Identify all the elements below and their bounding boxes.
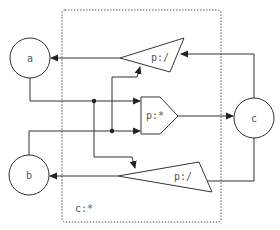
node-center-multiply[interactable]: p:* [141,97,178,134]
edge-b-to-center [29,131,140,155]
edge-c-to-upper [181,54,254,98]
node-center-multiply-label: p:* [146,110,164,121]
node-b[interactable]: b [9,155,49,195]
junction-dot-a [92,99,96,103]
node-a[interactable]: a [10,38,50,78]
container-label: c:* [75,203,93,214]
diagram-canvas: c:* a b c p:/ [0,0,280,230]
node-lower-divide-label: p:/ [174,171,192,182]
node-upper-divide[interactable]: p:/ [120,38,184,72]
node-c[interactable]: c [234,98,274,138]
edge-b-branch-to-upper [112,67,140,131]
node-upper-divide-label: p:/ [151,52,169,63]
junction-dot-b [110,129,114,133]
node-b-label: b [26,170,32,181]
edge-a-branch-to-lower [94,101,135,168]
node-c-label: c [251,113,257,124]
node-lower-divide[interactable]: p:/ [118,162,212,192]
node-a-label: a [27,53,33,64]
edge-a-to-center [30,78,140,101]
